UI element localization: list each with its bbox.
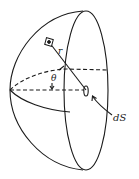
dS-pointer-arrow [93,97,112,115]
hemisphere-diagram: r θ dS [0,0,139,179]
dS-label: dS [113,112,126,123]
upper-dashed-arc [10,69,108,90]
lower-arc [10,90,70,112]
theta-upper-mark [59,66,64,70]
radius-label: r [58,46,63,56]
point-source-icon [45,38,54,47]
surface-element-dS [84,86,88,96]
theta-label: θ [51,73,57,83]
